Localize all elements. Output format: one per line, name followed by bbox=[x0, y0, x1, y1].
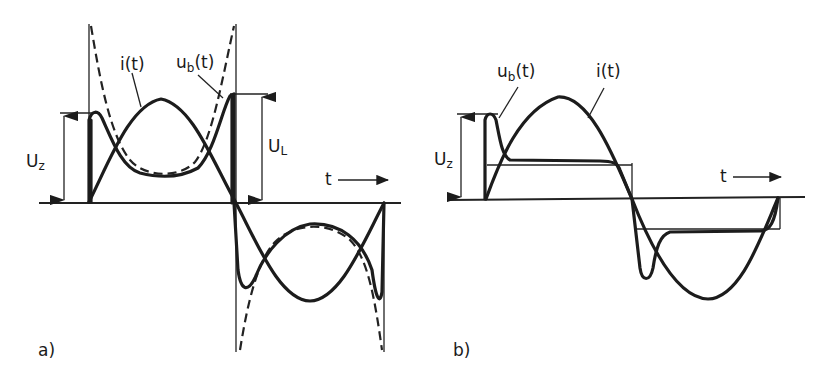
label-zener-b: Uz bbox=[434, 149, 453, 171]
label-zener-a: Uz bbox=[26, 151, 45, 173]
label-current-b: i(t) bbox=[596, 61, 621, 81]
panel-a: i(t) ub(t) Uz UL t a) bbox=[26, 24, 401, 360]
leader-line-voltage-b bbox=[499, 87, 518, 118]
label-voltage-b: ub(t) bbox=[497, 61, 535, 84]
leader-line-voltage-a bbox=[198, 75, 223, 98]
caption-b: b) bbox=[453, 340, 470, 360]
time-axis-b bbox=[447, 197, 805, 200]
label-current-a: i(t) bbox=[120, 54, 145, 74]
panel-b: ub(t) i(t) Uz t b) bbox=[434, 61, 805, 360]
voltage-curve-b bbox=[485, 114, 778, 279]
label-time-a: t bbox=[325, 169, 332, 189]
leader-line-current-a bbox=[132, 73, 141, 107]
waveform-figure: i(t) ub(t) Uz UL t a) ub(t) i(t) Uz t bbox=[0, 0, 834, 386]
label-time-b: t bbox=[720, 166, 727, 186]
label-voltage-a: ub(t) bbox=[176, 52, 214, 75]
leader-line-current-b bbox=[588, 88, 604, 118]
caption-a: a) bbox=[38, 340, 55, 360]
label-load-voltage: UL bbox=[268, 136, 287, 158]
